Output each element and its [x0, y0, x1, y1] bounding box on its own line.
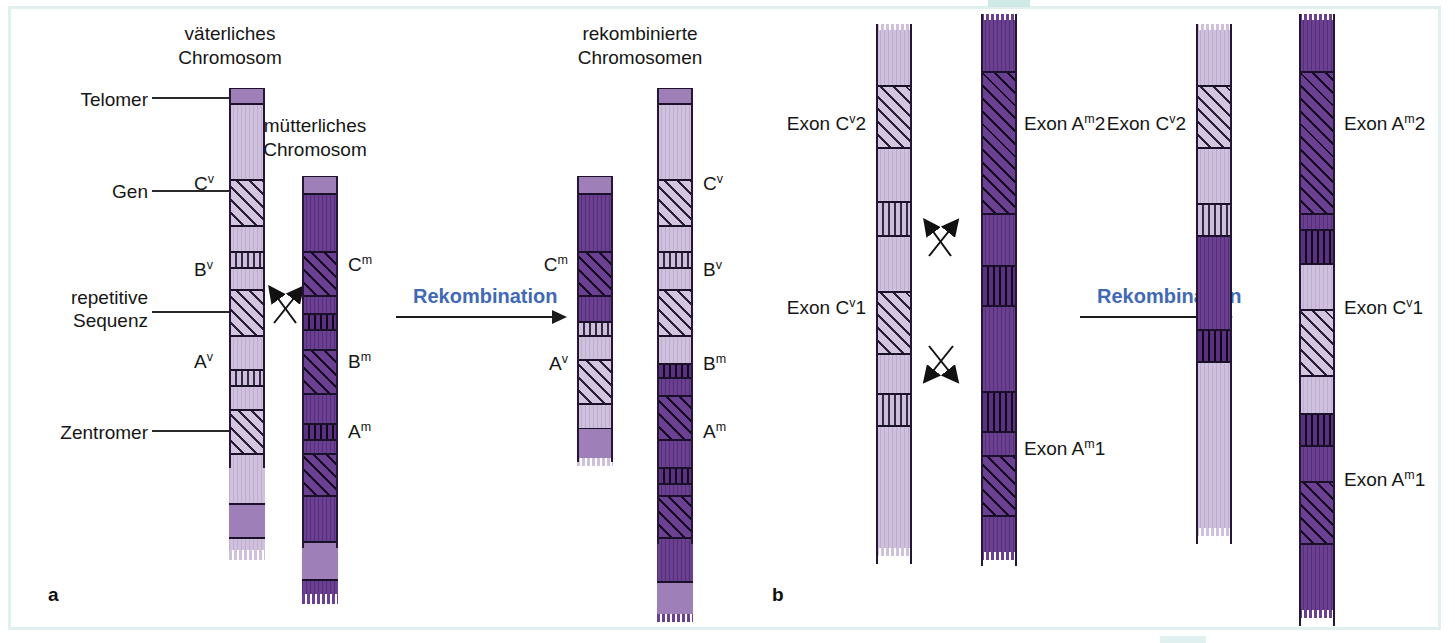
chromosome-recombinant-1: [577, 176, 613, 462]
gene-label-cm-recombinant1: Cm: [506, 253, 568, 277]
chromosome-edge-right: [1230, 24, 1232, 544]
band-body: [1196, 236, 1232, 330]
exon-label-num: 1: [1415, 469, 1426, 490]
band-repetitive-junction: [1196, 204, 1232, 236]
crossover-icon-lower: [920, 338, 966, 384]
band-body: [981, 306, 1017, 392]
band-body: [229, 454, 265, 504]
exon-label-text: Exon C: [787, 297, 849, 318]
callout-gen: Gen: [60, 180, 148, 203]
band-centromere: [229, 504, 265, 538]
band-body: [1299, 20, 1335, 72]
exon-label-cv2-left: Exon Cv2: [742, 112, 866, 136]
chromosome-edge-left: [1196, 24, 1198, 544]
callout-sequenz-text: Sequenz: [73, 310, 148, 331]
gene-sup: m: [361, 350, 371, 364]
band-body: [302, 440, 338, 454]
exon-label-sup: m: [1404, 112, 1414, 126]
band-gene-am: [657, 496, 693, 538]
band-body: [657, 336, 693, 364]
chromosome-ragged-end: [229, 550, 265, 560]
band-repetitive: [876, 394, 912, 426]
leader-gen: [152, 190, 232, 192]
chromosome-exon-recombinant-dark: [1299, 14, 1335, 626]
chromosome-exon-recombinant-light: [1196, 24, 1232, 544]
band-body: [1196, 148, 1232, 204]
gene-base: C: [194, 173, 208, 194]
callout-telomer-text: Telomer: [80, 89, 148, 110]
band-body: [577, 336, 613, 360]
chromosome-edge-left: [657, 88, 659, 544]
band-body: [1299, 544, 1335, 614]
gene-base: B: [194, 259, 207, 280]
chromosome-ragged-end: [657, 614, 693, 622]
chromosome-edge-left: [981, 14, 983, 566]
chromosome-ragged-end-bottom: [876, 548, 912, 556]
band-repetitive: [981, 266, 1017, 306]
panel-letter-b: b: [772, 584, 784, 606]
band-centromere: [657, 582, 693, 616]
recombination-arrow-shaft-a: [396, 316, 554, 318]
band-gene-cv: [229, 180, 265, 226]
chromosome-ragged-end: [302, 594, 338, 604]
chromosome-edge-left: [876, 24, 878, 564]
gene-base: A: [549, 353, 562, 374]
band-centromere: [577, 428, 613, 460]
band-repetitive: [657, 252, 693, 268]
band-body: [657, 104, 693, 180]
band-repetitive: [876, 202, 912, 236]
band-exon-cv1: [1299, 310, 1335, 376]
exon-label-text: Exon C: [787, 113, 849, 134]
band-repetitive-junction: [1196, 330, 1232, 362]
exon-label-cv2-right: Exon Cv2: [1062, 112, 1186, 136]
band-exon-am1: [1299, 482, 1335, 544]
band-gene-cv: [657, 180, 693, 226]
exon-label-num: 2: [1415, 113, 1426, 134]
exon-label-cv1-right: Exon Cv1: [1344, 296, 1423, 320]
band-gene-cm: [302, 252, 338, 296]
band-repetitive-junction: [657, 364, 693, 378]
chromosome-edge-right: [1015, 14, 1017, 566]
callout-zentromer-text: Zentromer: [60, 422, 148, 443]
exon-label-num: 1: [1095, 438, 1106, 459]
paternal-title-line1: väterliches: [115, 22, 345, 46]
band-gene-av: [577, 360, 613, 404]
gene-sup: v: [562, 352, 568, 366]
gene-label-av-recombinant1: Av: [506, 352, 568, 376]
band-telomere: [577, 176, 613, 194]
gene-base: A: [703, 421, 716, 442]
exon-label-num: 2: [855, 113, 866, 134]
paternal-chromosome-title: väterliches Chromosom: [115, 22, 345, 70]
band-telomere: [229, 88, 265, 104]
gene-label-cv-paternal: Cv: [194, 172, 214, 196]
chromosome-edge-right: [611, 176, 613, 462]
chromosome-ragged-end-bottom: [1196, 528, 1232, 536]
chromosome-ragged-end-bottom: [1299, 610, 1335, 618]
recombination-label-a: Rekombination: [413, 285, 557, 308]
band-body: [657, 226, 693, 252]
band-body: [302, 194, 338, 252]
exon-label-text: Exon C: [1344, 297, 1406, 318]
chromosome-edge-right: [1333, 14, 1335, 626]
chromosome-recombinant-2: [657, 88, 693, 544]
band-exon-am1: [981, 456, 1017, 516]
band-body: [876, 354, 912, 394]
callout-gen-text: Gen: [112, 181, 148, 202]
callout-repetitive-sequenz: repetitive Sequenz: [22, 286, 148, 332]
band-body: [577, 296, 613, 322]
exon-label-am2-right: Exon Am2: [1344, 112, 1425, 136]
band-repetitive: [302, 314, 338, 330]
band-body: [302, 394, 338, 424]
leader-telomer: [152, 97, 232, 99]
band-body: [1196, 362, 1232, 534]
band-body: [657, 484, 693, 496]
gene-sup: m: [716, 352, 726, 366]
gene-label-bv-recombinant2: Bv: [703, 258, 722, 282]
band-body: [302, 496, 338, 542]
band-body: [1299, 446, 1335, 482]
band-exon-cv1: [876, 292, 912, 354]
band-gene-bm: [302, 350, 338, 394]
chromosome-edge-right: [910, 24, 912, 564]
leader-zentromer: [152, 430, 232, 432]
band-exon-cv2: [1196, 86, 1232, 148]
